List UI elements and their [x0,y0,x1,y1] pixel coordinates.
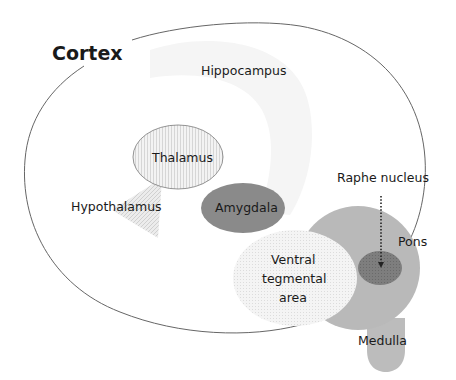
vta-label-line-3: area [279,290,307,305]
vta-label-line-1: Ventral [271,252,315,267]
hypothalamus-label: Hypothalamus [71,199,162,214]
cortex-label: Cortex [52,42,123,64]
thalamus-label: Thalamus [151,150,213,165]
hippocampus-label: Hippocampus [201,63,286,78]
raphe-nucleus-shape [358,251,402,285]
amygdala-label: Amygdala [215,200,278,215]
vta-label-line-2: tegmental [262,271,326,286]
medulla-label: Medulla [358,333,407,348]
raphe-nucleus-label: Raphe nucleus [337,170,429,185]
brain-regions-diagram: Cortex Hippocampus Thalamus Hypothalamus… [0,0,456,380]
pons-label: Pons [398,234,427,249]
